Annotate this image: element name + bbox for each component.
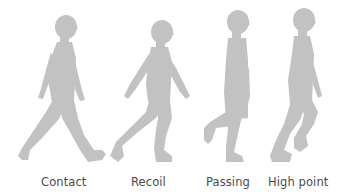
pose-label-recoil: Recoil <box>131 175 166 189</box>
pose-label-contact: Contact <box>41 175 86 189</box>
walk-cycle-diagram: Contact Recoil Passing High point <box>0 0 350 195</box>
high-point-pose-silhouette-icon <box>0 0 350 195</box>
pose-label-high-point: High point <box>268 175 328 189</box>
pose-label-passing: Passing <box>206 175 250 189</box>
